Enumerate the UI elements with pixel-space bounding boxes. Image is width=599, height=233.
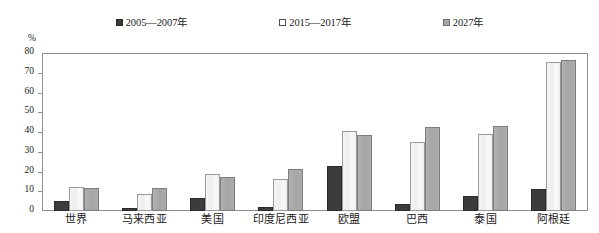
x-axis-label: 美国: [179, 213, 247, 226]
y-tick-label: 60: [25, 86, 35, 96]
x-axis-label: 世界: [42, 213, 110, 226]
x-axis-label: 泰国: [452, 213, 520, 226]
x-axis-labels: 世界马来西亚美国印度尼西亚欧盟巴西泰国阿根廷: [42, 213, 588, 226]
y-tick-label: 0: [29, 204, 34, 214]
legend-item[interactable]: 2005—2007年: [116, 17, 188, 28]
bar[interactable]: [220, 177, 235, 211]
y-tick-label: 70: [25, 66, 35, 76]
legend-item[interactable]: 2015—2017年: [279, 17, 351, 28]
bar-group: [383, 53, 451, 211]
bar[interactable]: [425, 127, 440, 211]
bar-group: [452, 53, 520, 211]
bar[interactable]: [258, 207, 273, 211]
bar[interactable]: [54, 201, 69, 211]
bar[interactable]: [327, 166, 342, 211]
y-axis-unit: %: [28, 33, 36, 43]
bar[interactable]: [288, 169, 303, 211]
y-tick-label: 40: [25, 125, 35, 135]
y-tick-label: 30: [25, 145, 35, 155]
bar-group: [110, 53, 178, 211]
x-axis-label: 印度尼西亚: [247, 213, 315, 226]
x-axis-label: 巴西: [383, 213, 451, 226]
y-tick-label: 50: [25, 105, 35, 115]
chart-legend: 2005—2007年2015—2017年2027年: [0, 12, 599, 32]
bar[interactable]: [273, 179, 288, 211]
bar[interactable]: [463, 196, 478, 211]
bar[interactable]: [395, 204, 410, 211]
bar[interactable]: [205, 174, 220, 211]
bar[interactable]: [152, 188, 167, 211]
y-tick-label: 80: [25, 46, 35, 56]
bar-group: [520, 53, 588, 211]
legend-item[interactable]: 2027年: [443, 17, 484, 28]
bar-group: [179, 53, 247, 211]
bar-group: [247, 53, 315, 211]
bar[interactable]: [342, 131, 357, 211]
y-tick-label: 10: [25, 184, 35, 194]
bar[interactable]: [546, 62, 561, 211]
legend-label: 2005—2007年: [126, 17, 188, 28]
y-tick-label: 20: [25, 165, 35, 175]
bar-group: [42, 53, 110, 211]
bar-group: [315, 53, 383, 211]
x-axis-label: 马来西亚: [110, 213, 178, 226]
bar-groups: [42, 53, 588, 211]
bar[interactable]: [478, 134, 493, 211]
x-axis-label: 欧盟: [315, 213, 383, 226]
legend-swatch-gray-square-icon: [443, 19, 450, 26]
bar[interactable]: [190, 198, 205, 211]
bar[interactable]: [69, 187, 84, 211]
bar[interactable]: [137, 194, 152, 211]
bar[interactable]: [410, 142, 425, 211]
legend-label: 2027年: [453, 17, 484, 28]
x-axis-label: 阿根廷: [520, 213, 588, 226]
legend-swatch-hollow-square-icon: [279, 19, 286, 26]
legend-label: 2015—2017年: [289, 17, 351, 28]
bar[interactable]: [493, 126, 508, 211]
bar[interactable]: [531, 189, 546, 211]
bar[interactable]: [357, 135, 372, 211]
legend-swatch-filled-square-icon: [116, 19, 123, 26]
bar[interactable]: [84, 188, 99, 211]
bar[interactable]: [122, 208, 137, 211]
bar-chart: 2005—2007年2015—2017年2027年 % 010203040506…: [0, 0, 599, 233]
bar[interactable]: [561, 60, 576, 211]
